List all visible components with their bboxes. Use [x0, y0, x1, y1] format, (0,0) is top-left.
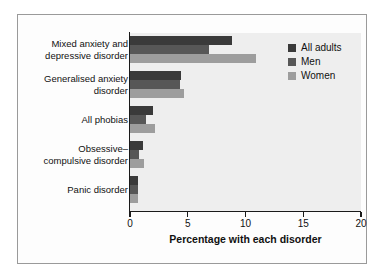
x-axis-tick-label: 5 — [185, 218, 191, 229]
legend-swatch-icon — [288, 58, 296, 66]
bar — [130, 106, 153, 115]
x-axis-tick-label: 20 — [355, 218, 366, 229]
x-axis-tick-label: 0 — [127, 218, 133, 229]
category-label: Panic disorder — [10, 184, 128, 196]
legend-label: Women — [301, 70, 335, 81]
bar — [130, 124, 155, 133]
x-axis-title: Percentage with each disorder — [130, 233, 361, 245]
bar — [130, 150, 139, 159]
bar — [130, 36, 232, 45]
category-label: All phobias — [10, 114, 128, 126]
x-axis-tick — [129, 212, 130, 217]
bar — [130, 115, 146, 124]
bar — [130, 159, 144, 168]
category-label: Mixed anxiety and depressive disorder — [10, 38, 128, 61]
x-axis-tick-label: 10 — [240, 218, 251, 229]
legend-swatch-icon — [288, 44, 296, 52]
legend-item: All adults — [288, 41, 342, 54]
legend-label: Men — [301, 56, 320, 67]
chart-legend: All adultsMenWomen — [288, 41, 342, 83]
x-axis-tick — [187, 212, 188, 217]
bar — [130, 54, 256, 63]
bar — [130, 185, 138, 194]
bar — [130, 141, 143, 150]
bar — [130, 176, 138, 185]
bar — [130, 80, 180, 89]
bar — [130, 89, 184, 98]
legend-item: Men — [288, 55, 342, 68]
chart-figure: 05101520 Mixed anxiety and depressive di… — [0, 0, 384, 279]
x-axis-tick-label: 15 — [298, 218, 309, 229]
x-axis-tick — [303, 212, 304, 217]
bar — [130, 45, 209, 54]
bar — [130, 194, 138, 203]
x-axis-tick — [245, 212, 246, 217]
legend-label: All adults — [301, 42, 342, 53]
x-axis-tick — [360, 212, 361, 217]
bar — [130, 71, 181, 80]
category-labels: Mixed anxiety and depressive disorderGen… — [5, 0, 128, 279]
legend-swatch-icon — [288, 72, 296, 80]
legend-item: Women — [288, 69, 342, 82]
category-label: Generalised anxiety disorder — [10, 73, 128, 96]
category-label: Obsessive– compulsive disorder — [10, 143, 128, 166]
